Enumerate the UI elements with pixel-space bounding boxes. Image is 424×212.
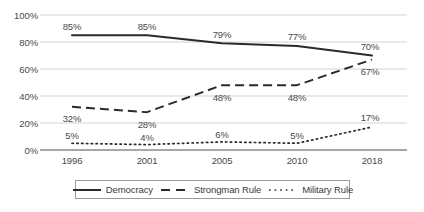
line-chart: 100% 80% 60% 40% 20% 0% 1996 2001 2005 2…: [0, 0, 424, 212]
x-tick-2001: 2001: [117, 155, 177, 166]
x-tick-2005: 2005: [192, 155, 252, 166]
data-label-strongman-2018: 67%: [348, 66, 392, 77]
x-tick-1996: 1996: [42, 155, 102, 166]
legend-label-military: Military Rule: [302, 184, 353, 195]
y-tick-0: 0%: [0, 145, 38, 156]
x-tick-2010: 2010: [267, 155, 327, 166]
data-label-strongman-1996: 32%: [50, 113, 94, 124]
data-label-military-2010: 5%: [275, 130, 319, 141]
data-label-strongman-2005: 48%: [200, 92, 244, 103]
y-tick-100: 100%: [0, 10, 38, 21]
y-tick-40: 40%: [0, 91, 38, 102]
legend-item-democracy[interactable]: Democracy: [72, 184, 153, 195]
data-label-democracy-2010: 77%: [275, 31, 319, 42]
data-label-democracy-1996: 85%: [50, 21, 94, 32]
legend-swatch-solid-icon: [72, 186, 102, 194]
data-label-democracy-2001: 85%: [125, 21, 169, 32]
data-label-military-2005: 6%: [200, 129, 244, 140]
data-label-military-1996: 5%: [50, 130, 94, 141]
legend-swatch-dashed-icon: [160, 186, 190, 194]
data-label-democracy-2018: 70%: [348, 41, 392, 52]
legend-item-strongman[interactable]: Strongman Rule: [160, 184, 261, 195]
data-label-strongman-2010: 48%: [275, 92, 319, 103]
data-label-military-2018: 17%: [348, 112, 392, 123]
legend-swatch-dotted-icon: [268, 186, 298, 194]
chart-legend: Democracy Strongman Rule Military Rule: [75, 180, 350, 199]
legend-item-military[interactable]: Military Rule: [268, 184, 353, 195]
legend-label-democracy: Democracy: [106, 184, 153, 195]
y-tick-80: 80%: [0, 37, 38, 48]
y-tick-60: 60%: [0, 64, 38, 75]
data-label-military-2001: 4%: [125, 132, 169, 143]
data-label-democracy-2005: 79%: [200, 29, 244, 40]
legend-label-strongman: Strongman Rule: [194, 184, 261, 195]
y-tick-20: 20%: [0, 118, 38, 129]
data-label-strongman-2001: 28%: [125, 119, 169, 130]
x-tick-2018: 2018: [342, 155, 402, 166]
series-line-strongman: [72, 60, 372, 113]
